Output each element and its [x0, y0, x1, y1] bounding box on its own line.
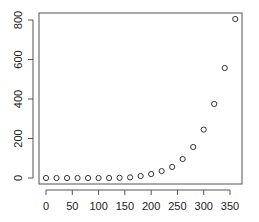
plot-box — [39, 13, 242, 184]
data-point — [201, 127, 206, 132]
data-point — [96, 175, 101, 180]
x-tick-label: 0 — [43, 200, 49, 212]
data-point — [43, 175, 48, 180]
scatter-plot: 050100150200250300350 0200400600800 — [0, 0, 259, 222]
x-tick-label: 250 — [168, 200, 186, 212]
data-point — [191, 144, 196, 149]
y-tick-label: 800 — [12, 11, 24, 29]
x-tick-label: 350 — [221, 200, 239, 212]
data-point — [85, 175, 90, 180]
data-point — [75, 175, 80, 180]
data-point — [117, 175, 122, 180]
data-point — [106, 175, 111, 180]
x-axis: 050100150200250300350 — [43, 190, 239, 212]
data-point — [159, 168, 164, 173]
x-tick-label: 300 — [195, 200, 213, 212]
data-point — [64, 175, 69, 180]
data-point — [222, 65, 227, 70]
x-tick-label: 100 — [89, 200, 107, 212]
data-point — [170, 164, 175, 169]
x-tick-label: 150 — [116, 200, 134, 212]
y-tick-label: 200 — [12, 129, 24, 147]
y-tick-label: 400 — [12, 90, 24, 108]
data-point — [128, 175, 133, 180]
data-point — [138, 173, 143, 178]
y-tick-label: 600 — [12, 50, 24, 68]
y-axis: 0200400600800 — [12, 11, 33, 181]
data-point — [180, 156, 185, 161]
y-tick-label: 0 — [12, 175, 24, 181]
data-points — [43, 16, 237, 180]
data-point — [212, 101, 217, 106]
x-tick-label: 50 — [66, 200, 78, 212]
data-point — [149, 171, 154, 176]
data-point — [233, 16, 238, 21]
x-tick-label: 200 — [142, 200, 160, 212]
data-point — [54, 175, 59, 180]
